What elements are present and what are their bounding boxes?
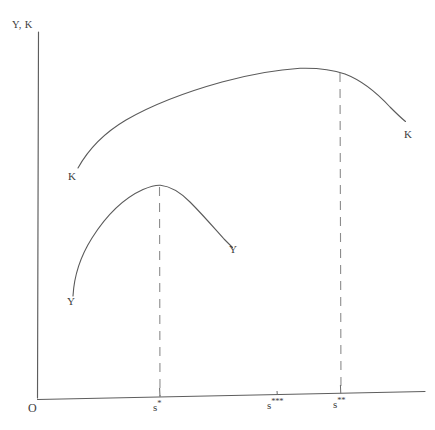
x-tick-label-s-triple-star: s*** xyxy=(267,396,283,411)
origin-label: O xyxy=(28,401,37,415)
y-axis xyxy=(38,32,39,398)
dashed-line-s-star xyxy=(160,187,161,397)
dashed-line-s-double-star xyxy=(340,73,341,394)
curve-label-y-right: Y xyxy=(229,243,237,255)
x-tick-sup-s-triple-star: *** xyxy=(271,396,283,406)
curve-y xyxy=(73,185,233,296)
curve-label-k-left: K xyxy=(68,170,76,182)
x-axis xyxy=(38,392,426,400)
x-tick-sup-s-star: * xyxy=(157,398,161,408)
x-tick-label-s-star: s* xyxy=(153,398,161,413)
y-axis-title: Y, K xyxy=(12,19,33,30)
curve-label-y-left: Y xyxy=(67,295,75,307)
curve-label-k-right: K xyxy=(404,128,412,140)
curve-k xyxy=(78,68,406,168)
figure-root: Y, K O K K Y Y s* s*** s** xyxy=(0,0,435,430)
x-tick-label-s-double-star: s** xyxy=(333,395,345,410)
x-tick-sup-s-double-star: ** xyxy=(337,395,345,405)
plot-canvas: Y, K O K K Y Y s* s*** s** xyxy=(0,0,435,430)
